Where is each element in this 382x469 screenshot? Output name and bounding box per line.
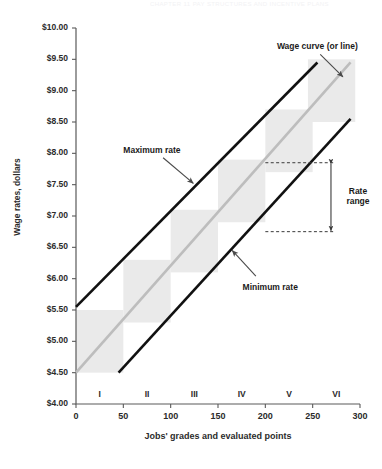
- y-tick-label: $6.00: [16, 273, 68, 283]
- y-tick-label: $5.00: [16, 335, 68, 345]
- series-line: [76, 62, 351, 372]
- annotation-maximum-rate: Maximum rate: [123, 145, 180, 155]
- grade-label-V: V: [269, 389, 309, 399]
- x-tick-label: 300: [340, 411, 380, 421]
- data-series: [76, 62, 351, 372]
- grade-label-III: III: [174, 389, 214, 399]
- x-tick-label: 100: [151, 411, 191, 421]
- grade-box-VI: [308, 59, 355, 122]
- x-tick-label: 0: [56, 411, 96, 421]
- y-tick-label: $8.00: [16, 147, 68, 157]
- grade-box-IV: [218, 160, 265, 223]
- grade-label-VI: VI: [316, 389, 356, 399]
- y-tick-label: $7.00: [16, 210, 68, 220]
- annotation-rate-range: Rate range: [341, 186, 375, 206]
- y-tick-label: $8.50: [16, 116, 68, 126]
- y-tick-label: $4.50: [16, 367, 68, 377]
- series-line: [119, 119, 351, 373]
- grade-label-IV: IV: [222, 389, 262, 399]
- y-tick-label: $5.50: [16, 304, 68, 314]
- x-tick-label: 150: [198, 411, 238, 421]
- grade-label-II: II: [127, 389, 167, 399]
- grade-label-I: I: [80, 389, 120, 399]
- y-tick-label: $4.00: [16, 398, 68, 408]
- chart-figure: CHAPTER 11 PAY STRUCTURES AND INCENTIVE …: [0, 0, 382, 469]
- y-tick-label: $6.50: [16, 241, 68, 251]
- x-tick-label: 200: [245, 411, 285, 421]
- arrow-maximum-rate: [163, 158, 193, 184]
- arrow-minimum-rate: [232, 250, 256, 276]
- y-tick-label: $9.00: [16, 85, 68, 95]
- x-tick-label: 50: [103, 411, 143, 421]
- y-tick-label: $10.00: [16, 22, 68, 32]
- x-tick-label: 250: [293, 411, 333, 421]
- annotation-minimum-rate: Minimum rate: [243, 282, 298, 292]
- y-tick-label: $9.50: [16, 53, 68, 63]
- annotation-wage-curve: Wage curve (or line): [277, 41, 358, 51]
- y-tick-label: $7.50: [16, 179, 68, 189]
